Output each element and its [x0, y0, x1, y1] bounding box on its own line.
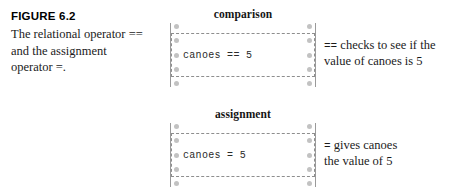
rail-dot: [174, 24, 179, 29]
frame-rail-right: [315, 23, 316, 87]
annotation-text-comparison-line-2: value of canoes is 5: [324, 54, 423, 68]
annotation-comparison: == checks to see if the value of canoes …: [324, 38, 448, 69]
diagram-comparison: comparison canoes == 5: [170, 8, 316, 87]
code-expression-assignment: canoes = 5: [183, 150, 246, 161]
dashed-code-box-assignment: canoes = 5: [171, 133, 315, 177]
annotation-text-assignment-line-2: the value of 5: [324, 154, 392, 168]
figure-caption-block: FIGURE 6.2 The relational operator == an…: [11, 9, 161, 76]
annotation-operator-comparison: ==: [324, 40, 337, 52]
rail-dot: [307, 81, 312, 86]
code-frame-assignment: canoes = 5: [170, 123, 316, 187]
rail-dot: [307, 124, 312, 129]
code-frame-comparison: canoes == 5: [170, 23, 316, 87]
rail-dot: [174, 124, 179, 129]
figure-caption-line-3: operator =.: [11, 59, 161, 76]
rail-dot: [307, 24, 312, 29]
rail-dot: [307, 181, 312, 186]
figure-caption-line-1: The relational operator ==: [11, 26, 161, 43]
figure-container: FIGURE 6.2 The relational operator == an…: [0, 0, 450, 192]
frame-rail-right: [315, 123, 316, 187]
annotation-assignment: = gives canoes the value of 5: [324, 138, 448, 169]
annotation-text-comparison-line-1: checks to see if the: [337, 38, 435, 52]
figure-caption-line-2: and the assignment: [11, 43, 161, 60]
diagram-assignment: assignment canoes = 5: [170, 108, 316, 187]
rail-dot: [174, 181, 179, 186]
diagram-heading-comparison: comparison: [170, 8, 316, 21]
figure-number-label: FIGURE 6.2: [11, 9, 161, 23]
dashed-code-box-comparison: canoes == 5: [171, 33, 315, 77]
annotation-operator-assignment: =: [324, 140, 331, 152]
rail-dot: [174, 81, 179, 86]
diagram-heading-assignment: assignment: [170, 108, 316, 121]
code-expression-comparison: canoes == 5: [183, 50, 252, 61]
annotation-text-assignment-line-1: gives canoes: [331, 138, 398, 152]
